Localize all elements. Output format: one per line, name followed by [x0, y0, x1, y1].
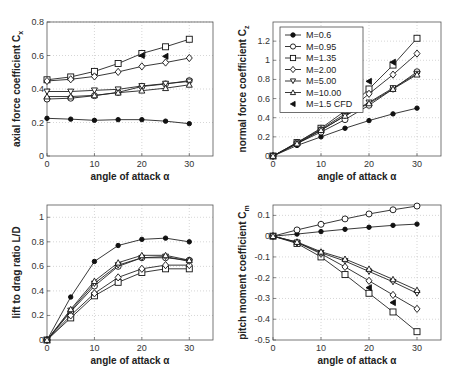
x-tick-label: 10 — [316, 159, 326, 169]
series-m-1-5-cfd — [139, 53, 168, 60]
y-axis-label: lift to drag ratio L/D — [11, 226, 22, 318]
y-tick-label: 0.4 — [31, 84, 44, 94]
y-tick-label: 0 — [265, 231, 270, 241]
data-point-marker — [139, 63, 145, 70]
data-point-marker — [415, 106, 419, 110]
x-tick-label: 0 — [44, 159, 49, 169]
y-tick-label: 1 — [265, 55, 270, 65]
legend-label: M=0.95 — [306, 42, 336, 52]
y-axis-label: normal force coefficient Cz — [237, 25, 250, 152]
data-point-marker — [140, 237, 144, 241]
x-axis-label: angle of attack α — [91, 171, 171, 182]
data-point-marker — [187, 121, 191, 125]
data-point-marker — [391, 112, 395, 116]
series-m-0-6 — [45, 116, 192, 126]
y-axis-label: axial force coefficient Cx — [11, 31, 24, 147]
y-tick-label: 0.8 — [257, 74, 270, 84]
x-tick-label: 20 — [137, 343, 147, 353]
legend-label: M=1.35 — [306, 53, 336, 63]
data-point-marker — [140, 117, 144, 121]
x-tick-label: 30 — [412, 159, 422, 169]
data-point-marker — [367, 118, 371, 122]
data-point-marker — [366, 290, 372, 296]
data-point-marker — [390, 300, 395, 306]
data-point-marker — [163, 59, 169, 66]
x-tick-label: 10 — [316, 343, 326, 353]
data-point-marker — [92, 118, 96, 122]
x-tick-label: 0 — [270, 343, 275, 353]
y-tick-label: 0.8 — [31, 17, 44, 27]
data-point-marker — [92, 259, 96, 263]
legend-label: M=1.5 CFD — [306, 99, 353, 109]
y-tick-label: -0.1 — [254, 252, 270, 262]
data-point-marker — [163, 236, 167, 240]
x-tick-label: 0 — [44, 343, 49, 353]
data-point-marker — [390, 207, 396, 213]
data-point-marker — [115, 68, 121, 75]
data-point-marker — [390, 71, 396, 78]
y-tick-label: 1 — [39, 212, 44, 222]
data-point-marker — [116, 243, 120, 247]
x-tick-label: 20 — [364, 159, 374, 169]
data-point-marker — [115, 61, 121, 67]
series-m-0-95 — [270, 203, 420, 239]
data-point-marker — [294, 227, 300, 233]
axial-force-plot: 010203000.20.40.60.8angle of attack αaxi… — [11, 17, 213, 182]
x-axis-label: angle of attack α — [318, 171, 398, 182]
y-tick-label: 0.1 — [257, 210, 270, 220]
legend: M=0.6M=0.95M=1.35M=2.00M=5.00M=10.00M=1.… — [280, 27, 363, 113]
x-tick-label: 10 — [89, 159, 99, 169]
data-point-marker — [163, 53, 168, 59]
legend-label: M=2.00 — [306, 65, 336, 75]
y-tick-label: -0.3 — [254, 293, 270, 303]
x-tick-label: 20 — [364, 343, 374, 353]
data-point-marker — [163, 119, 167, 123]
lift-to-drag-plot: 010203000.20.40.60.81angle of attack αli… — [11, 205, 213, 366]
x-tick-label: 10 — [89, 343, 99, 353]
y-tick-label: 0.2 — [31, 310, 44, 320]
pitch-moment-plot: 0102030-0.5-0.4-0.3-0.2-0.100.1angle of … — [237, 203, 441, 366]
data-point-marker — [414, 50, 420, 57]
data-point-marker — [414, 35, 420, 41]
data-point-marker — [116, 117, 120, 121]
y-tick-label: 0 — [265, 151, 270, 161]
data-point-marker — [367, 225, 371, 229]
series-m-0-6 — [45, 236, 192, 342]
y-tick-label: -0.5 — [254, 335, 270, 345]
x-tick-label: 0 — [270, 159, 275, 169]
data-point-marker — [342, 216, 348, 222]
y-tick-label: 0 — [39, 335, 44, 345]
legend-label: M=0.6 — [306, 30, 331, 40]
data-point-marker — [69, 117, 73, 121]
legend-label: M=5.00 — [306, 76, 336, 86]
data-point-marker — [390, 291, 396, 298]
y-axis-label: pitch moment coefficient Cm — [237, 205, 250, 340]
data-point-marker — [390, 309, 396, 315]
x-tick-label: 30 — [184, 159, 194, 169]
data-point-marker — [414, 203, 420, 209]
series-m-2-00 — [44, 262, 192, 344]
legend-label: M=10.00 — [306, 88, 341, 98]
data-point-marker — [342, 272, 348, 278]
data-point-marker — [414, 329, 420, 335]
x-axis-label: angle of attack α — [318, 355, 398, 366]
y-tick-label: 0.6 — [31, 51, 44, 61]
x-tick-label: 30 — [412, 343, 422, 353]
data-point-marker — [163, 44, 169, 50]
legend-marker — [290, 55, 295, 60]
series-m-2-00 — [44, 54, 192, 84]
x-axis-label: angle of attack α — [91, 355, 171, 366]
legend-marker — [290, 44, 295, 49]
y-tick-label: 0 — [39, 151, 44, 161]
data-point-marker — [415, 222, 419, 226]
y-tick-label: 0.2 — [31, 118, 44, 128]
y-tick-label: 0.6 — [257, 94, 270, 104]
data-point-marker — [45, 116, 49, 120]
data-point-marker — [318, 221, 324, 227]
series-m-5-00 — [44, 254, 192, 343]
data-point-marker — [391, 223, 395, 227]
data-point-marker — [366, 211, 372, 217]
series-m-10-00 — [44, 82, 192, 99]
data-point-marker — [69, 295, 73, 299]
y-tick-label: 0.2 — [257, 132, 270, 142]
